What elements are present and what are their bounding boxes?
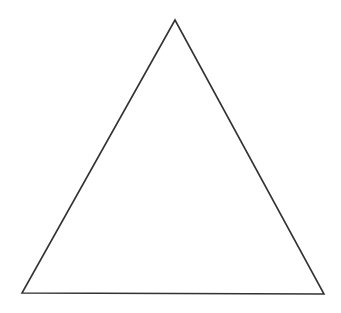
triangle-diagram [0,0,341,313]
triangle-shape [22,20,324,294]
diagram-canvas [0,0,341,313]
